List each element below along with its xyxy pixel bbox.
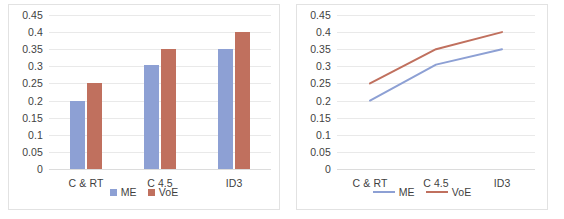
y-axis-tick-label: 0: [37, 163, 43, 175]
y-axis-tick-label: 0.2: [28, 95, 43, 107]
bar-me-1[interactable]: [144, 65, 159, 169]
bar-chart-legend: MEVoE: [9, 187, 279, 198]
y-axis-tick-label: 0.35: [22, 43, 43, 55]
bar-plot-area: 00.050.10.150.20.250.30.350.40.45 C & RT…: [9, 5, 279, 209]
legend-line-marker: [426, 191, 448, 193]
bar-me-0[interactable]: [70, 101, 85, 169]
y-axis-tick-label: 0.15: [22, 112, 43, 124]
bar-y-axis: 00.050.10.150.20.250.30.350.40.45: [9, 5, 43, 209]
bar-voe-0[interactable]: [87, 83, 102, 169]
bar-me-2[interactable]: [218, 49, 233, 169]
legend-label: VoE: [159, 187, 179, 198]
legend-entry[interactable]: ME: [373, 187, 415, 198]
bar-voe-1[interactable]: [161, 49, 176, 169]
legend-label: VoE: [452, 187, 472, 198]
legend-color-swatch: [148, 189, 155, 196]
legend-entry[interactable]: VoE: [426, 187, 472, 198]
legend-entry[interactable]: ME: [110, 187, 137, 198]
y-axis-tick-label: 0.45: [22, 9, 43, 21]
line-chart-panel: 00.050.10.150.20.250.30.350.40.45 C & RT…: [296, 4, 548, 210]
y-axis-tick-label: 0.1: [28, 129, 43, 141]
gridline: [49, 169, 271, 170]
legend-label: ME: [121, 187, 137, 198]
legend-line-marker: [373, 191, 395, 193]
bar-chart-panel: 00.050.10.150.20.250.30.350.40.45 C & RT…: [8, 4, 280, 210]
legend-entry[interactable]: VoE: [148, 187, 179, 198]
figure-root: 00.050.10.150.20.250.30.350.40.45 C & RT…: [0, 0, 564, 219]
line-series-group: [297, 5, 549, 211]
y-axis-tick-label: 0.25: [22, 77, 43, 89]
legend-color-swatch: [110, 189, 117, 196]
line-plot-area: 00.050.10.150.20.250.30.350.40.45 C & RT…: [297, 5, 547, 209]
line-chart-legend: MEVoE: [297, 187, 547, 198]
y-axis-tick-label: 0.3: [28, 60, 43, 72]
y-axis-tick-label: 0.05: [22, 146, 43, 158]
line-series-voe[interactable]: [370, 32, 502, 83]
legend-label: ME: [399, 187, 415, 198]
bar-voe-2[interactable]: [235, 32, 250, 169]
line-series-me[interactable]: [370, 49, 502, 100]
y-axis-tick-label: 0.4: [28, 26, 43, 38]
gridline: [49, 15, 271, 16]
